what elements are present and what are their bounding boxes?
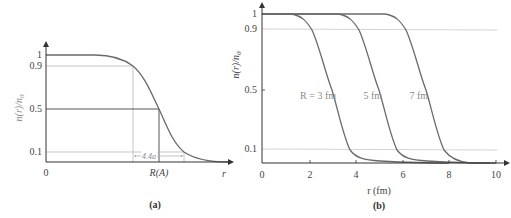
xtick-R: R(A) bbox=[149, 167, 170, 179]
curve-label-R3: R = 3 fm bbox=[300, 90, 336, 101]
ytick-0.1: 0.1 bbox=[30, 146, 43, 157]
x-axis-label: r (fm) bbox=[367, 185, 391, 197]
figure: 4.4a 1 0.9 0.5 0.1 0 R(A) r n(r)/n0 (a) … bbox=[0, 0, 511, 218]
panel-b: R = 3 fm 5 fm 7 fm 0 2 4 6 8 10 1 0.9 0.… bbox=[230, 5, 507, 212]
xtick-0: 0 bbox=[260, 169, 265, 180]
curve-label-R5: 5 fm bbox=[363, 90, 382, 101]
curve-R3 bbox=[262, 14, 449, 163]
x-axis-label: r bbox=[222, 168, 226, 179]
caption-a: (a) bbox=[149, 199, 161, 211]
curve-label-R7: 7 fm bbox=[409, 90, 428, 101]
ytick-0.1: 0.1 bbox=[245, 143, 258, 154]
xtick-8: 8 bbox=[447, 169, 452, 180]
ytick-1: 1 bbox=[252, 8, 257, 19]
y-axis-label: n(r)/n0 bbox=[13, 94, 26, 121]
panel-a: 4.4a 1 0.9 0.5 0.1 0 R(A) r n(r)/n0 (a) bbox=[13, 44, 231, 211]
ytick-1: 1 bbox=[37, 49, 42, 60]
ref-line-0.1 bbox=[262, 149, 497, 150]
xtick-10: 10 bbox=[491, 169, 501, 180]
xtick-2: 2 bbox=[308, 169, 313, 180]
dimension-label: 4.4a bbox=[142, 152, 156, 161]
ref-line-0.9 bbox=[262, 29, 497, 30]
xtick-4: 4 bbox=[354, 169, 359, 180]
xtick-6: 6 bbox=[401, 169, 406, 180]
xtick-origin: 0 bbox=[44, 167, 49, 178]
y-axis-label: n(r)/n0 bbox=[230, 51, 243, 78]
ytick-0.9: 0.9 bbox=[245, 23, 258, 34]
ytick-0.9: 0.9 bbox=[30, 60, 43, 71]
ytick-0.5: 0.5 bbox=[30, 103, 43, 114]
ytick-0.5: 0.5 bbox=[245, 84, 258, 95]
curve-R5 bbox=[262, 14, 490, 163]
caption-b: (b) bbox=[373, 200, 385, 212]
